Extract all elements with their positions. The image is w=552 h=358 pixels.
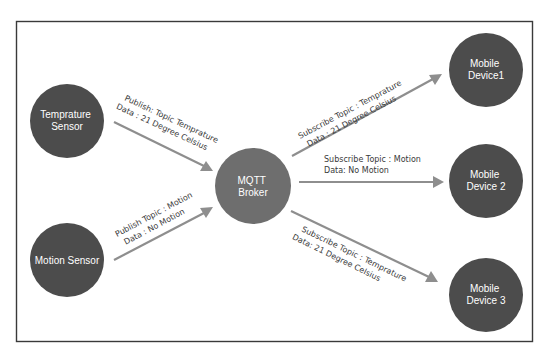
node-mobile-device-2: Mobile Device 2: [449, 144, 523, 218]
node-mobile-device-3: Mobile Device 3: [449, 258, 523, 332]
node-mqtt-broker: MQTT Broker: [215, 148, 291, 224]
node-label: Mobile Device 3: [467, 283, 506, 306]
node-motion-sensor: Motion Sensor: [30, 223, 104, 297]
node-label: Mobile Device 2: [467, 169, 506, 192]
node-circle: [215, 148, 291, 224]
edge-label-data: Data: No Motion: [324, 166, 389, 175]
edge-label-topic: Subscribe Topic : Motion: [324, 155, 421, 164]
node-label: MQTT Broker: [238, 175, 269, 198]
node-temperature-sensor: Temprature Sensor: [30, 84, 104, 158]
node-label: Mobile Device1: [468, 58, 505, 81]
node-mobile-device-1: Mobile Device1: [449, 33, 523, 107]
mqtt-diagram: Publish: Topic Temprature Data : 21 Degr…: [0, 0, 552, 358]
node-label: Motion Sensor: [35, 255, 100, 266]
